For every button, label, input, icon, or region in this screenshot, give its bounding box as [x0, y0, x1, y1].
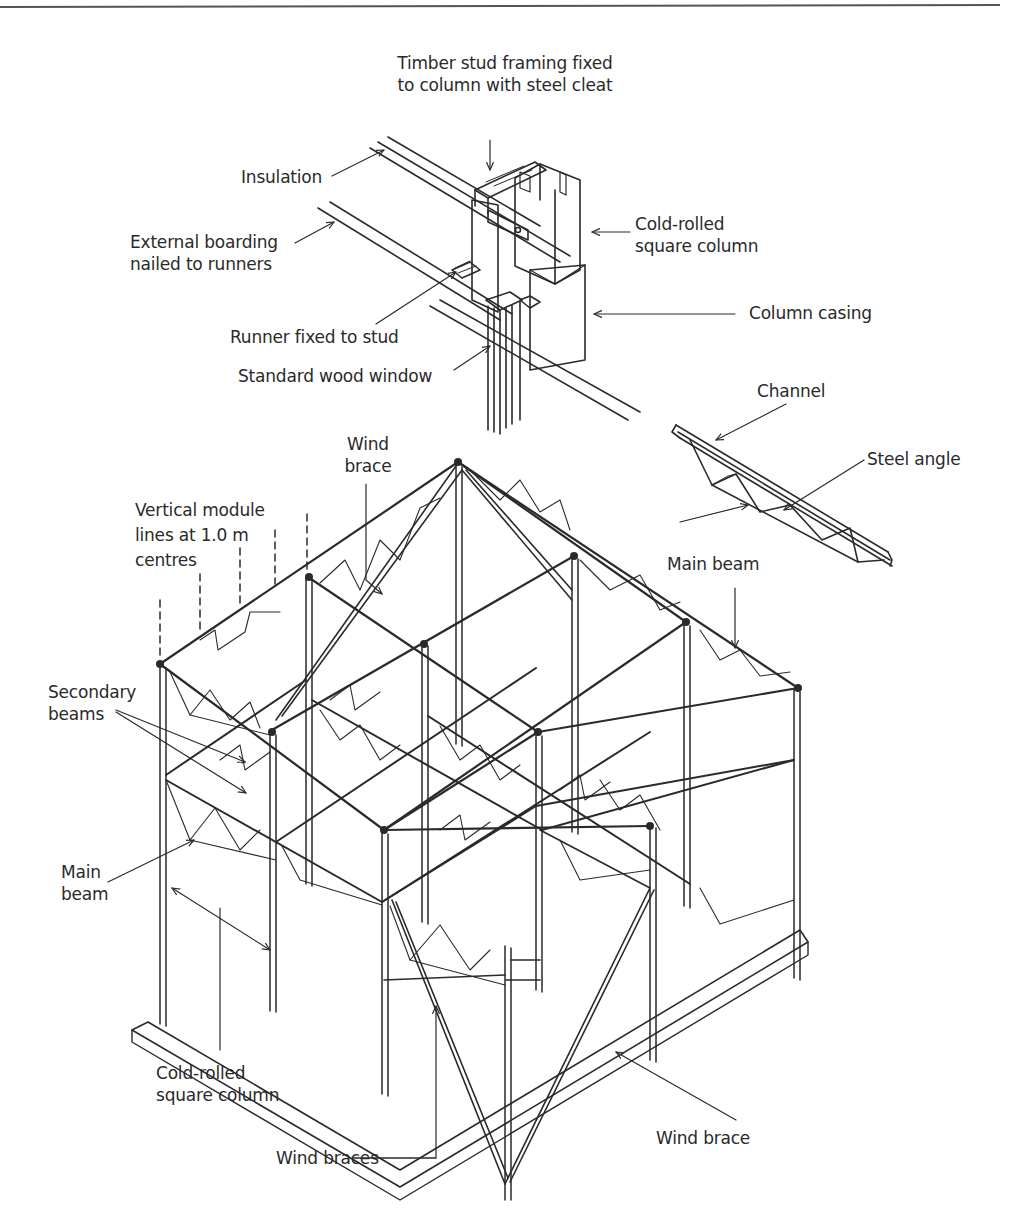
leader-lines	[108, 140, 864, 1158]
label-line: beams	[48, 703, 136, 725]
label-runner: Runner fixed to stud	[230, 326, 399, 348]
label-line: lines at 1.0 m	[135, 523, 265, 548]
label-line: Runner fixed to stud	[230, 326, 399, 348]
label-main-beam-detail: Main beam	[667, 553, 759, 575]
label-line: beam	[61, 883, 108, 905]
label-line: Column casing	[749, 302, 872, 324]
label-line: Wind	[340, 433, 396, 455]
label-steel-angle: Steel angle	[867, 448, 960, 470]
label-line: Cold-rolled	[156, 1062, 279, 1084]
label-line: Wind braces	[276, 1147, 379, 1169]
label-column-casing: Column casing	[749, 302, 872, 324]
label-line: Steel angle	[867, 448, 960, 470]
label-line: brace	[340, 455, 396, 477]
label-line: Main	[61, 861, 108, 883]
label-line: nailed to runners	[130, 253, 278, 275]
label-line: Insulation	[241, 166, 322, 188]
column-detail	[318, 137, 640, 434]
label-wind-brace-top: Wind brace	[340, 433, 396, 477]
label-cold-rolled-column-detail: Cold-rolled square column	[635, 213, 758, 257]
label-main-beam: Main beam	[61, 861, 108, 905]
label-line: Secondary	[48, 681, 136, 703]
label-line: square column	[635, 235, 758, 257]
label-line: Timber stud framing fixed	[370, 52, 640, 74]
label-timber-stud-framing: Timber stud framing fixed to column with…	[370, 52, 640, 96]
label-wind-brace: Wind brace	[656, 1127, 750, 1149]
label-external-boarding: External boarding nailed to runners	[130, 231, 278, 275]
label-line: Channel	[757, 380, 825, 402]
label-line: centres	[135, 548, 265, 573]
structural-frame-drawing	[0, 0, 1015, 1215]
label-wind-braces: Wind braces	[276, 1147, 379, 1169]
truss-detail	[672, 425, 892, 566]
label-line: Wind brace	[656, 1127, 750, 1149]
label-line: Main beam	[667, 553, 759, 575]
label-line: External boarding	[130, 231, 278, 253]
label-line: Cold-rolled	[635, 213, 758, 235]
label-line: square column	[156, 1084, 279, 1106]
label-secondary-beams: Secondary beams	[48, 681, 136, 725]
label-insulation: Insulation	[241, 166, 322, 188]
label-vertical-module-lines: Vertical module lines at 1.0 m centres	[135, 498, 265, 573]
label-standard-wood-window: Standard wood window	[238, 365, 432, 387]
label-line: to column with steel cleat	[370, 74, 640, 96]
label-channel: Channel	[757, 380, 825, 402]
label-line: Vertical module	[135, 498, 265, 523]
label-line: Standard wood window	[238, 365, 432, 387]
label-cold-rolled-column: Cold-rolled square column	[156, 1062, 279, 1106]
